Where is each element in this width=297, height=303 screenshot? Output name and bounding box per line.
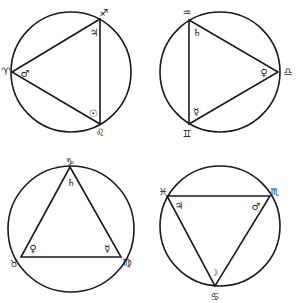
zodiac-scorpio-icon: ♏ bbox=[271, 186, 280, 197]
zodiac-cancer-icon: ♋ bbox=[211, 291, 220, 302]
planet-mercury-icon: ☿ bbox=[193, 106, 199, 117]
triplicity-fire: ♈♂♐♃♌☉ bbox=[2, 7, 131, 138]
zodiac-leo-icon: ♌ bbox=[96, 127, 105, 138]
planet-venus-icon: ♀ bbox=[260, 67, 267, 78]
zodiac-gemini-icon: ♊ bbox=[183, 128, 192, 139]
planet-saturn-icon: ♄ bbox=[193, 27, 202, 38]
triplicity-diagram: ♈♂♐♃♌☉♒♄♎♀♊☿♑♄♉♀♍☿♓♃♏♂♋☽ bbox=[0, 0, 297, 303]
zodiac-taurus-icon: ♉ bbox=[10, 258, 19, 269]
zodiac-aries-icon: ♈ bbox=[2, 66, 11, 77]
planet-jupiter-icon: ♃ bbox=[175, 200, 184, 211]
zodiac-aquarius-icon: ♒ bbox=[183, 7, 192, 18]
planet-jupiter-icon: ♃ bbox=[90, 27, 99, 38]
planet-mars-icon: ♂ bbox=[21, 68, 30, 79]
triplicity-earth: ♑♄♉♀♍☿ bbox=[8, 156, 134, 293]
circle bbox=[160, 166, 280, 286]
planet-moon-icon: ☽ bbox=[210, 267, 219, 278]
zodiac-virgo-icon: ♍ bbox=[123, 257, 132, 268]
zodiac-capricorn-icon: ♑ bbox=[66, 156, 75, 167]
planet-mercury-icon: ☿ bbox=[104, 243, 110, 254]
zodiac-sagittarius-icon: ♐ bbox=[100, 7, 109, 18]
zodiac-libra-icon: ♎ bbox=[284, 66, 293, 77]
triplicity-air: ♒♄♎♀♊☿ bbox=[160, 7, 293, 139]
planet-mars-icon: ♂ bbox=[252, 201, 261, 212]
planet-saturn-icon: ♄ bbox=[67, 177, 76, 188]
triplicity-water: ♓♃♏♂♋☽ bbox=[159, 166, 280, 302]
planet-sun-icon: ☉ bbox=[89, 108, 98, 119]
zodiac-pisces-icon: ♓ bbox=[159, 186, 168, 197]
planet-venus-icon: ♀ bbox=[29, 243, 36, 254]
